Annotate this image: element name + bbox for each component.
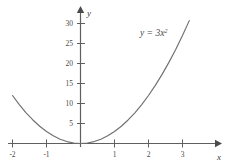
y-tick-label-15: 15 xyxy=(66,79,74,88)
x-axis-tick-labels: -2 -1 1 2 3 xyxy=(9,150,184,159)
curve-equation-text: y = 3x2 xyxy=(139,27,168,39)
x-tick-label-3: 3 xyxy=(181,150,185,159)
y-tick-label-20: 20 xyxy=(66,59,74,68)
x-tick-label--2: -2 xyxy=(9,150,15,159)
x-axis-label: x xyxy=(216,152,221,162)
parabola-curve xyxy=(13,21,190,144)
x-axis-arrowhead xyxy=(215,140,222,147)
y-axis xyxy=(77,6,84,147)
y-tick-label-10: 10 xyxy=(66,99,74,108)
x-tick-label--1: -1 xyxy=(43,150,49,159)
y-tick-label-30: 30 xyxy=(66,19,74,28)
y-axis-arrowhead xyxy=(77,6,84,13)
x-tick-label-1: 1 xyxy=(113,150,117,159)
parabola-figure: -2 -1 1 2 3 5 10 15 20 25 30 y x y = 3x2 xyxy=(0,0,230,167)
x-tick-label-2: 2 xyxy=(147,150,151,159)
y-tick-label-25: 25 xyxy=(66,39,74,48)
y-axis-tick-labels: 5 10 15 20 25 30 xyxy=(66,19,74,128)
curve-equation-label: y = 3x2 xyxy=(139,27,168,39)
plot-canvas: -2 -1 1 2 3 5 10 15 20 25 30 y x y = 3x2 xyxy=(0,0,230,167)
y-tick-label-5: 5 xyxy=(69,119,73,128)
y-axis-label: y xyxy=(86,8,91,18)
